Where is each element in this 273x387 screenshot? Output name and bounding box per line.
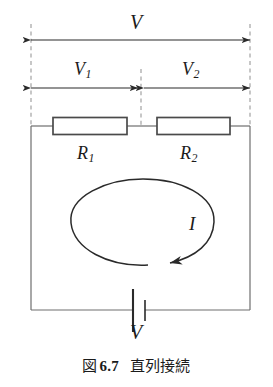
label-resistor-1: R1	[77, 144, 94, 165]
resistor-r2-body	[157, 118, 230, 135]
label-resistor-1-base: R	[77, 143, 88, 163]
caption-title: 直列接続	[130, 358, 191, 374]
label-voltage-1-base: V	[74, 59, 85, 79]
label-resistor-2: R2	[180, 144, 197, 165]
series-circuit-figure: V V1 V2 R1 R2 I V 図6.7直列接続	[0, 0, 273, 387]
label-voltage-1: V1	[74, 60, 91, 81]
label-resistor-2-base: R	[180, 143, 191, 163]
label-voltage-1-subscript: 1	[86, 67, 92, 81]
circuit-wires	[31, 126, 250, 310]
label-voltage-2-subscript: 2	[194, 67, 200, 81]
label-source-voltage: V	[130, 322, 142, 342]
label-voltage-2-base: V	[182, 59, 193, 79]
label-total-voltage: V	[130, 12, 142, 32]
label-resistor-1-subscript: 1	[89, 151, 95, 165]
label-current: I	[189, 214, 195, 233]
caption-prefix: 図	[82, 358, 97, 374]
figure-caption: 図6.7直列接続	[0, 354, 273, 375]
caption-number: 6.7	[100, 358, 119, 374]
label-resistor-2-subscript: 2	[192, 151, 198, 165]
resistor-r1-body	[53, 118, 127, 135]
label-voltage-2: V2	[182, 60, 199, 81]
